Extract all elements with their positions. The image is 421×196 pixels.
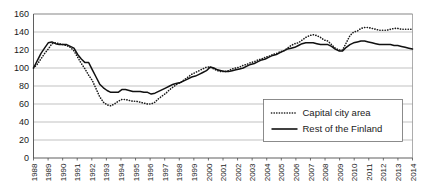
x-tick-label: 2001	[219, 163, 228, 181]
x-tick-label: 2012	[379, 163, 388, 181]
x-tick-label: 1994	[117, 163, 126, 181]
x-tick-label: 2004	[263, 163, 272, 181]
x-tick-label: 2009	[336, 163, 345, 181]
x-tick-label: 2005	[277, 163, 286, 181]
legend-label: Capital city area	[303, 107, 372, 118]
x-tick-label: 1988	[30, 163, 39, 181]
x-tick-label: 2003	[248, 163, 257, 181]
x-axis-tick-labels: 1988198919901991199219931994199519961997…	[30, 158, 418, 181]
x-tick-label: 1990	[59, 163, 68, 181]
x-tick-label: 1996	[146, 163, 155, 181]
y-tick-label: 20	[19, 135, 29, 145]
x-tick-label: 2000	[205, 163, 214, 181]
x-tick-label: 1999	[190, 163, 199, 181]
y-tick-label: 80	[19, 81, 29, 91]
x-tick-label: 2011	[365, 163, 374, 181]
x-tick-label: 1997	[161, 163, 170, 181]
x-tick-label: 1993	[102, 163, 111, 181]
x-tick-label: 2007	[307, 163, 316, 181]
y-tick-label: 140	[14, 27, 29, 37]
x-tick-label: 1991	[73, 163, 82, 181]
legend-label: Rest of the Finland	[303, 123, 383, 134]
x-tick-label: 2006	[292, 163, 301, 181]
x-tick-label: 2014	[409, 163, 418, 181]
x-tick-label: 2008	[321, 163, 330, 181]
price-index-line-chart: 020406080100120140160 198819891990199119…	[0, 0, 421, 196]
y-tick-label: 40	[19, 117, 29, 127]
x-tick-label: 1992	[88, 163, 97, 181]
chart-canvas: 020406080100120140160 198819891990199119…	[0, 0, 421, 196]
legend-box	[264, 100, 403, 142]
x-tick-label: 1995	[132, 163, 141, 181]
x-tick-label: 1989	[44, 163, 53, 181]
y-tick-label: 0	[24, 153, 29, 163]
y-tick-label: 100	[14, 63, 29, 73]
y-tick-label: 60	[19, 99, 29, 109]
y-tick-label: 160	[14, 9, 29, 19]
x-tick-label: 2002	[234, 163, 243, 181]
y-tick-label: 120	[14, 45, 29, 55]
x-tick-label: 1998	[175, 163, 184, 181]
x-tick-label: 2010	[350, 163, 359, 181]
chart-legend: Capital city areaRest of the Finland	[264, 100, 403, 142]
x-tick-label: 2013	[394, 163, 403, 181]
y-axis-tick-labels: 020406080100120140160	[14, 9, 29, 163]
